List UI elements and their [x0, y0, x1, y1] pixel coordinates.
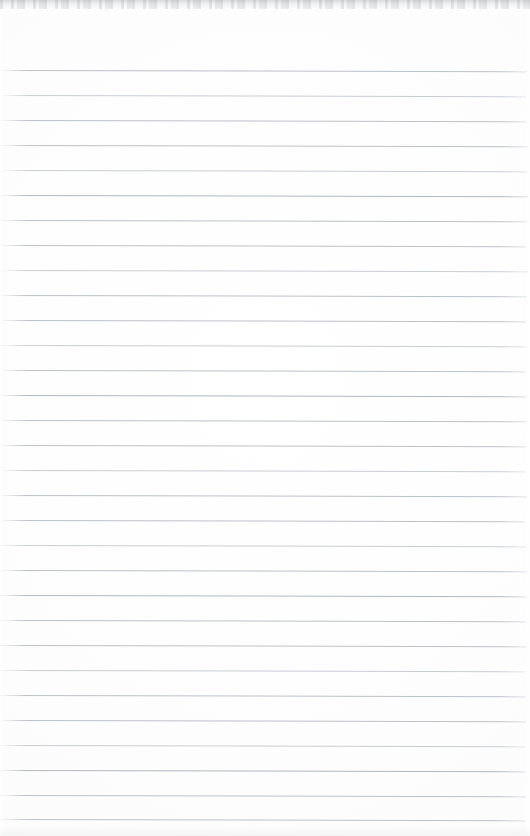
rule-line [3, 95, 526, 97]
rule-line [2, 120, 527, 122]
rule-line [1, 395, 526, 397]
rule-line [2, 145, 528, 147]
rule-line [1, 670, 524, 672]
rule-line [2, 370, 525, 372]
rule-line [2, 320, 526, 322]
rule-line [2, 270, 527, 272]
rule-line [2, 70, 527, 72]
scan-artifact-bottom-band [0, 826, 530, 836]
scan-artifact-top-band [0, 0, 530, 9]
rule-line [0, 695, 525, 697]
rule-line [1, 720, 526, 722]
rule-line [2, 470, 526, 472]
page-edge-left-band [0, 0, 7, 836]
rule-line [1, 495, 527, 497]
page-edge-right-band [524, 0, 530, 836]
rule-line [2, 520, 525, 522]
rule-line [1, 345, 527, 347]
rule-line [2, 220, 526, 222]
rule-line [2, 195, 528, 197]
ruled-lines-layer [0, 0, 530, 836]
lined-paper-page [0, 0, 530, 836]
rule-line [0, 745, 525, 747]
rule-line [1, 445, 526, 447]
rule-line [2, 620, 526, 622]
rule-line [1, 595, 526, 597]
rule-line [1, 645, 527, 647]
rule-line [1, 245, 525, 247]
rule-line [2, 570, 527, 572]
rule-line [1, 819, 525, 821]
rule-line [4, 170, 527, 172]
paper-surface [0, 0, 530, 836]
rule-line [1, 295, 526, 297]
rule-line [0, 795, 526, 797]
rule-line [2, 420, 527, 422]
rule-line [1, 545, 526, 547]
rule-line [1, 770, 525, 772]
